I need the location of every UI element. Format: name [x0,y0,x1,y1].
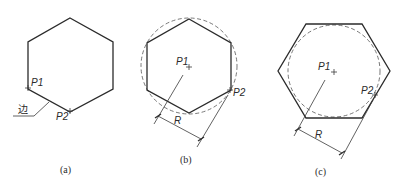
extension-line-center-c [294,80,325,136]
p2-label-a: P2 [56,111,69,122]
p1-label-b: P1 [176,56,188,67]
extension-line-p2-c [341,100,373,159]
p1-label-a: P1 [31,77,43,88]
p1-marker-c [331,69,337,75]
p1-label-c: P1 [318,61,330,72]
p2-label-b: P2 [233,87,246,98]
figure-a: P1 P2 边 (a) [13,18,113,176]
caption-b: (b) [180,154,192,166]
caption-a: (a) [60,164,71,176]
figure-b: P1 P2 R (b) [141,18,246,166]
edge-label: 边 [18,104,28,115]
hexagon-a [28,18,113,112]
figure-c: P1 P2 R (c) [278,24,390,178]
hexagon-diagram: P1 P2 边 (a) P1 P2 [0,0,402,192]
caption-c: (c) [315,166,326,178]
radius-label-b: R [174,115,181,126]
p2-label-c: P2 [361,85,374,96]
radius-label-c: R [315,129,322,140]
